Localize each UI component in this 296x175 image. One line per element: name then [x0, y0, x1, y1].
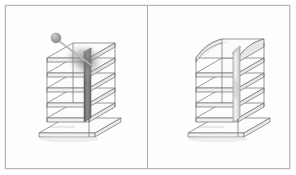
ground-shadow [188, 136, 248, 142]
panel-divider [147, 6, 148, 168]
floor-slab-stack [196, 58, 264, 122]
panel-left-impact-state [5, 5, 147, 169]
shear-wall-core [233, 46, 240, 122]
left-panel-drawing [5, 5, 147, 169]
right-panel-drawing [148, 5, 290, 169]
ground-shadow [39, 136, 99, 142]
impactor-ball [51, 33, 61, 43]
figure-root [0, 0, 296, 175]
panel-right-deformed-state [148, 5, 290, 169]
